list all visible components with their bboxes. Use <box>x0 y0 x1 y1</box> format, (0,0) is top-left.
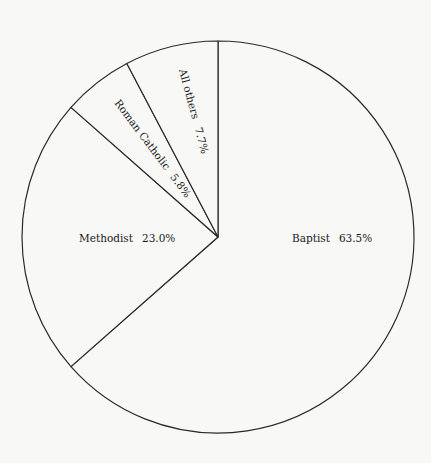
slice-label-methodist: Methodist23.0% <box>79 232 175 244</box>
pie-chart: Baptist63.5% Methodist23.0% Roman Cathol… <box>0 0 431 463</box>
